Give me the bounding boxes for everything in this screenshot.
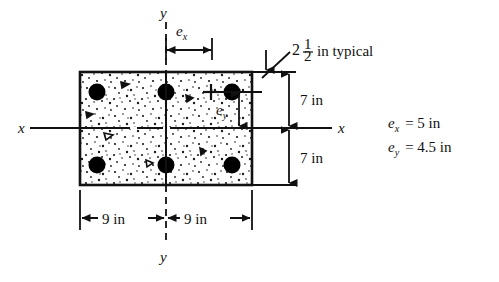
ex-value-line: ex= 5 in: [388, 115, 441, 134]
concrete-section-diagram: x x y y ex ey 7 in 7 in 2 1 2 in typi: [0, 0, 499, 282]
ex-value-equation: = 5 in: [405, 115, 441, 131]
ex-value-subscript: x: [394, 123, 400, 134]
ex-subscript: x: [182, 31, 188, 42]
y-axis-label-top: y: [158, 5, 167, 21]
height-top-label: 7 in: [300, 92, 323, 108]
rebar-dot: [89, 84, 106, 101]
x-axis-label-left: x: [17, 120, 25, 136]
rebar-dot: [224, 157, 241, 174]
figure-canvas: x x y y ex ey 7 in 7 in 2 1 2 in typi: [0, 0, 499, 282]
cover-whole-number: 2: [292, 41, 300, 58]
height-bottom-label: 7 in: [300, 150, 323, 166]
cover-fraction-denominator: 2: [304, 48, 312, 64]
cover-unit-text: in typical: [317, 43, 373, 59]
ey-value-subscript: y: [394, 147, 400, 158]
ey-value-equation: = 4.5 in: [405, 139, 452, 155]
cover-leader: [262, 50, 290, 78]
ey-subscript: y: [222, 110, 228, 121]
height-dimensions: [252, 72, 296, 185]
ex-dimension-label: ex: [176, 23, 188, 42]
eccentricity-values: ex= 5 in ey= 4.5 in: [388, 115, 452, 158]
rebar-dot: [89, 157, 106, 174]
width-right-label: 9 in: [184, 211, 207, 227]
width-left-label: 9 in: [102, 211, 125, 227]
y-axis-label-bottom: y: [158, 249, 167, 265]
cover-dimension-label: 2 1 2 in typical: [292, 36, 373, 64]
ey-value-line: ey= 4.5 in: [388, 139, 452, 158]
ex-dimension: [166, 38, 212, 60]
x-axis-label-right: x: [337, 120, 345, 136]
